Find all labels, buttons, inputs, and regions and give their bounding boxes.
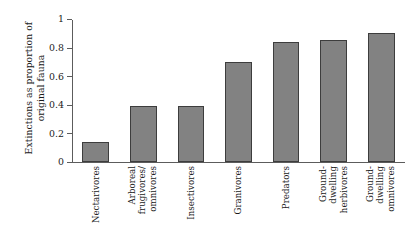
bar (273, 42, 300, 162)
bar-slot (368, 33, 395, 162)
x-axis-label-line: Predators (281, 166, 291, 209)
x-axis-label-slot: Arborealfrugivores/omnivores (120, 166, 168, 240)
x-axis-label-slot: Nectarivores (72, 166, 120, 240)
bar (368, 33, 395, 162)
x-axis-label: Ground-dwellingherbivores (318, 166, 349, 213)
bar-slot (225, 62, 252, 162)
x-axis-label: Granivores (233, 166, 243, 215)
y-axis-title-line-2: original fauna (35, 22, 47, 155)
x-axis-line (72, 162, 405, 163)
y-axis-tick: 0 (67, 162, 72, 163)
x-axis-label-slot: Insectivores (167, 166, 215, 240)
bar (130, 106, 157, 162)
x-axis-label-line: Ground- (366, 166, 376, 212)
bar (178, 106, 205, 162)
x-axis-label-line: dwelling (328, 166, 338, 213)
bar (320, 40, 347, 162)
y-axis-title-line-1: Extinctions as proportion of (23, 22, 35, 155)
x-axis-label-line: Ground- (318, 166, 328, 213)
x-axis-label: Ground-dwellingomnivores (366, 166, 397, 212)
bar-chart-figure: Extinctions as proportion of original fa… (0, 0, 420, 240)
x-axis-label: Insectivores (186, 166, 196, 220)
y-axis-tick-label: 0.8 (49, 43, 64, 52)
x-axis-label-line: omnivores (386, 166, 396, 212)
y-axis-tick-label: 0 (58, 158, 64, 167)
x-axis-label-slot: Ground-dwellingomnivores (357, 166, 405, 240)
y-axis-tick-label: 1 (58, 15, 64, 24)
x-axis-label: Predators (281, 166, 291, 209)
x-axis-label-line: omnivores (149, 166, 159, 214)
x-axis-label-line: frugivores/ (138, 166, 148, 214)
x-axis-label-line: Nectarivores (91, 166, 101, 223)
x-axis-label: Nectarivores (91, 166, 101, 223)
bar-slot (178, 106, 205, 162)
y-axis-tick-label: 0.2 (49, 129, 64, 138)
bar (225, 62, 252, 162)
x-axis-label-line: herbivores (339, 166, 349, 213)
bar-slot (130, 106, 157, 162)
bar-series (72, 19, 405, 162)
bar (82, 142, 109, 162)
x-axis-label-line: dwelling (376, 166, 386, 212)
x-axis-label-line: Arboreal (128, 166, 138, 214)
x-axis-label-slot: Predators (262, 166, 310, 240)
y-axis-tick-label: 0.6 (49, 72, 64, 81)
x-axis-label: Arborealfrugivores/omnivores (128, 166, 159, 214)
y-axis-title-text: Extinctions as proportion of original fa… (23, 22, 46, 155)
x-axis-tick-labels: NectarivoresArborealfrugivores/omnivores… (72, 166, 405, 240)
bar-slot (320, 40, 347, 162)
x-axis-label-slot: Granivores (215, 166, 263, 240)
y-axis-tick-label: 0.4 (49, 101, 64, 110)
x-axis-label-line: Insectivores (186, 166, 196, 220)
y-axis-title: Extinctions as proportion of original fa… (10, 8, 60, 168)
bar-slot (82, 142, 109, 162)
bar-slot (273, 42, 300, 162)
x-axis-label-slot: Ground-dwellingherbivores (310, 166, 358, 240)
plot-area: 00.20.40.60.81 (72, 20, 405, 163)
x-axis-label-line: Granivores (233, 166, 243, 215)
